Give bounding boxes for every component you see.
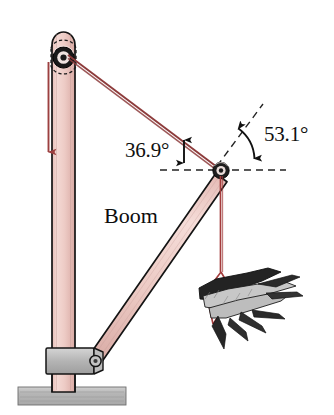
angle-label-boom: 53.1° xyxy=(264,122,308,147)
vertical-mast xyxy=(52,32,75,392)
boom-extension-dashed-line xyxy=(217,104,263,166)
log-bundle-load xyxy=(199,268,303,349)
boom-label: Boom xyxy=(104,203,158,229)
diagram-canvas xyxy=(0,0,334,415)
angle-label-cable: 36.9° xyxy=(125,138,169,163)
crane-boom-diagram: 36.9° 53.1° Boom xyxy=(0,0,334,415)
